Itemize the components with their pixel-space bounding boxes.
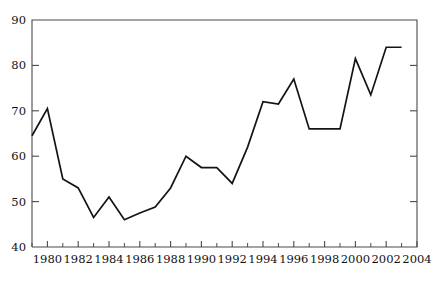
y-axis-tick-labels: 405060708090 [11, 13, 26, 254]
x-tick-label-1996: 1996 [279, 252, 308, 266]
x-tick-label-1988: 1988 [156, 252, 185, 266]
y-tick-label-40: 40 [11, 240, 26, 254]
y-tick-label-90: 90 [11, 13, 26, 27]
x-tick-label-1994: 1994 [248, 252, 277, 266]
x-tick-label-1980: 1980 [33, 252, 62, 266]
chart-container: 405060708090 198019821984198619881990199… [0, 0, 438, 282]
x-tick-label-2002: 2002 [372, 252, 401, 266]
y-tick-label-70: 70 [11, 104, 26, 118]
x-tick-label-1984: 1984 [94, 252, 123, 266]
y-tick-label-50: 50 [11, 195, 26, 209]
y-tick-label-60: 60 [11, 149, 26, 163]
x-axis-ticks [32, 241, 417, 247]
x-tick-label-1986: 1986 [125, 252, 154, 266]
y-axis-ticks [32, 65, 417, 201]
x-tick-label-1982: 1982 [64, 252, 93, 266]
data-series-group [32, 47, 402, 220]
series-1-line [32, 47, 402, 220]
x-tick-label-1992: 1992 [218, 252, 247, 266]
x-tick-label-1998: 1998 [310, 252, 339, 266]
plot-frame [32, 20, 417, 247]
y-tick-label-80: 80 [11, 58, 26, 72]
line-chart: 405060708090 198019821984198619881990199… [0, 0, 438, 282]
x-tick-label-2004: 2004 [402, 252, 431, 266]
x-axis-tick-labels: 1980198219841986198819901992199419961998… [33, 252, 432, 266]
x-tick-label-2000: 2000 [341, 252, 370, 266]
x-tick-label-1990: 1990 [187, 252, 216, 266]
